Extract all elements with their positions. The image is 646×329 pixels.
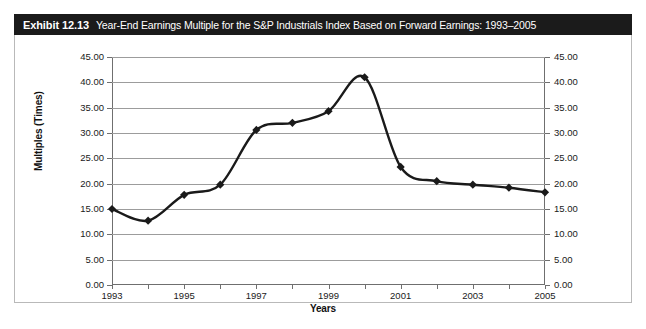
y-axis-tick-label: 25.00 <box>554 153 598 163</box>
y-axis-tick-label: 10.00 <box>554 229 598 239</box>
y-axis-title: Multiples (Times) <box>33 91 44 171</box>
x-tick <box>509 285 510 289</box>
y-tick-right <box>545 209 550 210</box>
x-tick <box>112 285 113 289</box>
x-axis-tick-label: 1995 <box>164 291 204 301</box>
x-axis-tick-label: 2001 <box>381 291 421 301</box>
x-axis-tick-label: 1997 <box>236 291 276 301</box>
x-tick <box>292 285 293 289</box>
y-axis-tick-label: 10.00 <box>60 229 104 239</box>
y-axis-tick-label: 5.00 <box>60 255 104 265</box>
exhibit-figure: Exhibit 12.13 Year-End Earnings Multiple… <box>0 0 646 329</box>
y-axis-tick-label: 35.00 <box>554 103 598 113</box>
x-tick <box>473 285 474 289</box>
x-tick <box>545 285 546 289</box>
y-axis-tick-label: 40.00 <box>60 77 104 87</box>
y-axis-tick-label: 30.00 <box>554 128 598 138</box>
y-axis-tick-label: 30.00 <box>60 128 104 138</box>
y-axis-tick-label: 0.00 <box>554 280 598 290</box>
y-tick-right <box>545 82 550 83</box>
y-axis-tick-label: 20.00 <box>60 179 104 189</box>
y-axis-tick-label: 25.00 <box>60 153 104 163</box>
y-tick-right <box>545 108 550 109</box>
y-axis-tick-label: 15.00 <box>554 204 598 214</box>
data-point-marker <box>288 119 296 127</box>
exhibit-caption: Year-End Earnings Multiple for the S&P I… <box>96 19 536 31</box>
x-axis-title: Years <box>0 303 646 314</box>
data-point-marker <box>144 217 152 225</box>
y-axis-tick-label: 45.00 <box>60 52 104 62</box>
x-tick <box>256 285 257 289</box>
y-tick-right <box>545 234 550 235</box>
x-axis-tick-label: 1993 <box>92 291 132 301</box>
x-axis-tick-label: 2003 <box>453 291 493 301</box>
data-point-marker <box>469 181 477 189</box>
y-tick-right <box>545 158 550 159</box>
x-axis-tick-label: 1999 <box>309 291 349 301</box>
x-tick <box>220 285 221 289</box>
x-tick <box>365 285 366 289</box>
y-tick-right <box>545 184 550 185</box>
x-tick <box>437 285 438 289</box>
y-axis-tick-label: 35.00 <box>60 103 104 113</box>
y-tick-right <box>545 57 550 58</box>
x-axis-tick-label: 2005 <box>525 291 565 301</box>
x-tick <box>148 285 149 289</box>
y-axis-tick-label: 5.00 <box>554 255 598 265</box>
y-axis-tick-label: 20.00 <box>554 179 598 189</box>
data-point-marker <box>505 184 513 192</box>
data-series-line <box>112 57 545 285</box>
y-tick-right <box>545 260 550 261</box>
exhibit-number: Exhibit 12.13 <box>23 19 89 31</box>
y-axis-tick-label: 0.00 <box>60 280 104 290</box>
x-tick <box>184 285 185 289</box>
y-axis-tick-label: 40.00 <box>554 77 598 87</box>
x-tick <box>401 285 402 289</box>
data-point-marker <box>433 177 441 185</box>
x-tick <box>329 285 330 289</box>
series-line <box>112 76 545 221</box>
y-axis-tick-label: 15.00 <box>60 204 104 214</box>
y-tick-right <box>545 133 550 134</box>
exhibit-title-bar: Exhibit 12.13 Year-End Earnings Multiple… <box>14 14 632 35</box>
y-axis-tick-label: 45.00 <box>554 52 598 62</box>
plot-area: 45.0040.0035.0030.0025.0020.0015.0010.00… <box>112 57 545 285</box>
